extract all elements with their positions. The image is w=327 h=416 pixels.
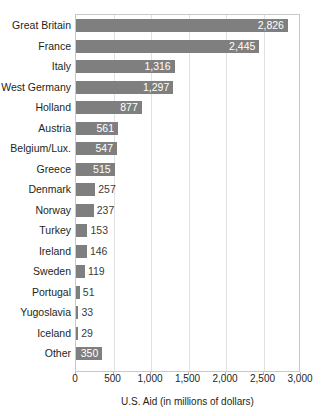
- bar-row: 515: [76, 160, 299, 181]
- category-label: Holland: [35, 97, 71, 118]
- bar-row: 350: [76, 344, 299, 365]
- category-label: Yugoslavia: [20, 302, 71, 323]
- bar-value-label: 1,316: [76, 60, 171, 73]
- bar: [76, 245, 87, 258]
- bar-value-label: 146: [90, 245, 108, 258]
- x-tick-label: 2,000: [212, 373, 237, 384]
- bar-row: 2,445: [76, 37, 299, 58]
- category-label: Other: [45, 343, 71, 364]
- x-tick-label: 1,500: [175, 373, 200, 384]
- bar-value-label: 515: [76, 163, 111, 176]
- bar: [76, 265, 85, 278]
- category-label: Sweden: [33, 261, 71, 282]
- category-label: Greece: [37, 159, 71, 180]
- bar-value-label: 33: [81, 306, 93, 319]
- marshall-plan-bar-chart: The Marshall Plan Great BritainFranceIta…: [0, 0, 327, 416]
- bar-row: 547: [76, 139, 299, 160]
- category-label: Iceland: [37, 323, 71, 344]
- x-tick-label: 500: [104, 373, 121, 384]
- category-label: Denmark: [28, 179, 71, 200]
- bar-value-label: 561: [76, 122, 114, 135]
- bar-row: 153: [76, 221, 299, 242]
- category-label: Austria: [38, 118, 71, 139]
- bar-value-label: 350: [76, 347, 98, 360]
- bar-value-label: 237: [97, 204, 115, 217]
- bar-value-label: 2,445: [76, 40, 255, 53]
- bar: [76, 204, 94, 217]
- category-label: Turkey: [39, 220, 71, 241]
- bar-row: 51: [76, 283, 299, 304]
- x-tick-label: 3,000: [287, 373, 312, 384]
- bar: [76, 306, 78, 319]
- category-label: France: [38, 36, 71, 57]
- x-tick-label: 2,500: [250, 373, 275, 384]
- bar: [76, 224, 87, 237]
- category-label: Belgium/Lux.: [10, 138, 71, 159]
- bar-row: 146: [76, 242, 299, 263]
- bar: [76, 183, 95, 196]
- bar-row: 33: [76, 303, 299, 324]
- category-label: West Germany: [1, 77, 71, 98]
- category-label: Italy: [52, 56, 71, 77]
- x-tick-label: 0: [72, 373, 78, 384]
- bar-row: 877: [76, 98, 299, 119]
- bar-row: 257: [76, 180, 299, 201]
- bar-row: 237: [76, 201, 299, 222]
- bar: [76, 327, 78, 340]
- category-label: Norway: [35, 200, 71, 221]
- chart-title: The Marshall Plan: [6, 0, 105, 2]
- x-axis-title: U.S. Aid (in millions of dollars): [75, 396, 300, 407]
- bar-row: 1,316: [76, 57, 299, 78]
- bar-row: 2,826: [76, 16, 299, 37]
- bar-value-label: 547: [76, 142, 113, 155]
- bar-row: 1,297: [76, 78, 299, 99]
- bar-value-label: 153: [90, 224, 108, 237]
- category-label: Ireland: [39, 241, 71, 262]
- x-tick-label: 1,000: [137, 373, 162, 384]
- category-label: Great Britain: [12, 15, 71, 36]
- bar-row: 561: [76, 119, 299, 140]
- bar: [76, 286, 80, 299]
- bar-row: 119: [76, 262, 299, 283]
- bar-row: 29: [76, 324, 299, 345]
- bar-value-label: 1,297: [76, 81, 169, 94]
- category-label: Portugal: [32, 282, 71, 303]
- category-axis-labels: Great BritainFranceItalyWest GermanyHoll…: [0, 14, 71, 372]
- bar-value-label: 257: [98, 183, 116, 196]
- plot-area: 2,8262,4451,3161,29787756154751525723715…: [75, 14, 300, 372]
- bar-value-label: 51: [83, 286, 95, 299]
- bar-value-label: 29: [81, 327, 93, 340]
- bar-rows: 2,8262,4451,3161,29787756154751525723715…: [76, 15, 299, 371]
- bar-value-label: 877: [76, 101, 138, 114]
- x-axis-tick-labels: 05001,0001,5002,0002,5003,000: [0, 373, 327, 387]
- bar-value-label: 2,826: [76, 19, 284, 32]
- bar-value-label: 119: [88, 265, 105, 278]
